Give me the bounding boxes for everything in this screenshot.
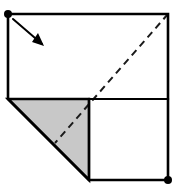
fold-diagram-svg (0, 0, 177, 193)
figure-canvas (0, 0, 177, 193)
corner-dot-bottom-right (164, 176, 172, 184)
corner-dot-top-left (4, 10, 12, 18)
